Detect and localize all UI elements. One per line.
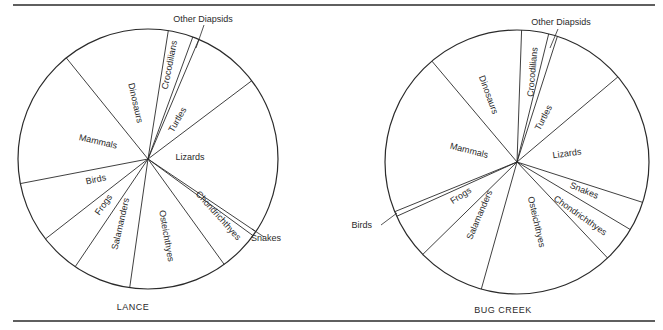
slice-boundary-lizards (148, 81, 252, 159)
slice-label-birds: Birds (85, 172, 108, 186)
slice-boundary-salamanders (130, 159, 148, 288)
callout-leader-other-diapsids (196, 25, 204, 48)
slice-label-turtles: Turtles (166, 105, 188, 134)
slice-label-mammals: Mammals (449, 141, 490, 160)
slice-label-crocodilians: Crocodilians (525, 46, 539, 97)
pie-bug-creek: CrocodiliansTurtlesLizardsSnakesChondric… (351, 17, 649, 315)
slice-label-salamanders: Salamanders (110, 196, 132, 250)
slice-label-chondrichthyes: Chondrichthyes (194, 189, 244, 243)
slice-label-osteichthyes: Osteichthyes (526, 195, 548, 248)
callout-label-snakes: Snakes (251, 233, 282, 243)
slice-boundary-crocodilians (148, 31, 168, 159)
chart-canvas: CrocodiliansTurtlesLizardsChondrichthyes… (0, 0, 663, 330)
slice-boundary-birds (46, 159, 149, 239)
slice-label-dinosaurs: Dinosaurs (126, 82, 145, 124)
callout-leader-birds (381, 213, 397, 225)
callout-label-birds: Birds (351, 220, 372, 230)
slice-boundary-crocodilians (517, 30, 522, 162)
pie-title-lance: LANCE (117, 302, 150, 312)
slice-boundary-birds (397, 162, 517, 216)
callout-label-other-diapsids: Other Diapsids (531, 17, 591, 27)
slice-label-osteichthyes: Osteichthyes (157, 209, 176, 262)
pie-chart-figure: LANCE BUG CREEK CrocodiliansTurtlesLizar… (0, 0, 663, 330)
slice-boundary-mammals (20, 159, 148, 184)
slice-label-lizards: Lizards (175, 152, 205, 162)
pie-lance: CrocodiliansTurtlesLizardsChondrichthyes… (18, 14, 282, 312)
slice-boundary-frogs (75, 159, 148, 267)
slice-label-mammals: Mammals (78, 132, 119, 151)
callout-label-other-diapsids: Other Diapsids (173, 14, 233, 24)
pie-title-bug-creek: BUG CREEK (474, 305, 532, 315)
slice-label-dinosaurs: Dinosaurs (477, 74, 500, 116)
slice-boundary-salamanders (481, 162, 517, 289)
slice-label-turtles: Turtles (533, 103, 555, 132)
slice-label-lizards: Lizards (552, 146, 583, 160)
